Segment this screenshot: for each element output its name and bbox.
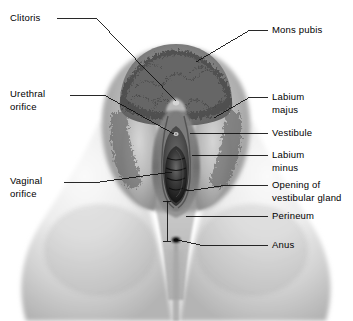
label-anus: Anus (272, 239, 294, 252)
label-urethral-orifice: Urethral orifice (10, 88, 45, 113)
label-mons-pubis: Mons pubis (272, 24, 322, 37)
label-labium-minus: Labium minus (272, 149, 304, 174)
label-clitoris: Clitoris (10, 12, 41, 25)
figure-canvas: Clitoris Urethral orifice Vaginal orific… (0, 0, 353, 321)
label-perineum: Perineum (272, 210, 314, 223)
label-vaginal-orifice: Vaginal orifice (10, 175, 42, 200)
label-vestibule: Vestibule (272, 127, 312, 140)
label-opening-of-vestibular-gland: Opening of vestibular gland (272, 179, 342, 204)
label-labium-majus: Labium majus (272, 91, 304, 116)
